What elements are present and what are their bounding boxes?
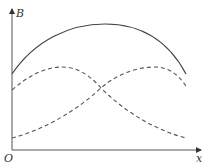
y-axis-label: B [15,7,24,20]
x-axis-label: x [196,152,203,165]
origin-label: O [4,152,13,165]
dashed-curve-right-peak [12,67,186,138]
magnetic-field-diagram: B O x [0,0,210,166]
dashed-curve-left-peak [12,67,186,138]
solid-curve [12,24,186,74]
